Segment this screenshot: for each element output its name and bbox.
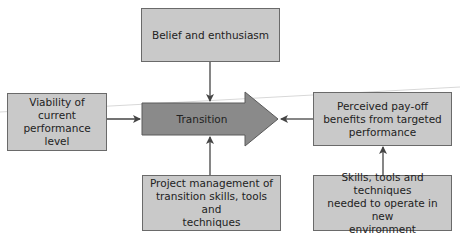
node-perceived-payoff: Perceived pay-off benefits from targeted…	[313, 92, 452, 146]
node-label: Viability of current performance level	[12, 96, 102, 148]
node-project-management: Project management of transition skills,…	[142, 175, 281, 231]
node-viability-current-performance: Viability of current performance level	[7, 93, 107, 151]
node-label: Perceived pay-off benefits from targeted…	[323, 100, 442, 139]
node-label: Skills, tools and techniques needed to o…	[318, 171, 447, 236]
node-label: Project management of transition skills,…	[147, 177, 276, 229]
node-belief-enthusiasm: Belief and enthusiasm	[141, 8, 280, 62]
node-skills-tools-techniques: Skills, tools and techniques needed to o…	[313, 175, 452, 231]
transition-label: Transition	[142, 103, 262, 135]
node-label: Belief and enthusiasm	[152, 29, 269, 42]
transition-text: Transition	[177, 113, 228, 125]
